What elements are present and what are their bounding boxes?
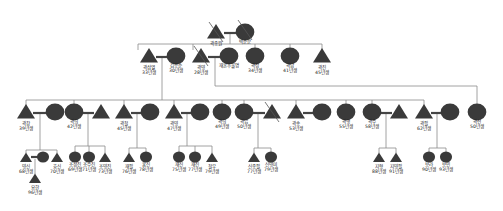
male-person-triangle xyxy=(390,104,408,118)
person-birth-year: 58년생 xyxy=(357,124,387,129)
person-label: 곽종원 xyxy=(201,41,231,46)
male-person-triangle xyxy=(313,48,331,62)
male-person-triangle xyxy=(165,104,183,118)
female-person-circle xyxy=(337,104,356,121)
male-person-triangle xyxy=(263,104,281,118)
female-person-circle xyxy=(140,152,152,163)
family-tree-diagram xyxy=(0,0,503,211)
male-person-triangle xyxy=(123,152,135,162)
person-birth-year: 78년생 xyxy=(131,167,161,172)
person-birth-year: 33년생 xyxy=(134,70,164,75)
female-person-circle xyxy=(65,104,84,121)
female-person-circle xyxy=(191,104,210,121)
male-person-triangle xyxy=(207,24,225,38)
female-person-circle xyxy=(141,104,160,121)
person-label: 곽희42년생 xyxy=(59,119,89,130)
female-person-circle xyxy=(83,152,95,163)
person-birth-year: 93년생 xyxy=(431,167,461,172)
male-person-triangle xyxy=(92,104,110,118)
person-birth-year: 62년생 xyxy=(409,126,439,131)
male-person-triangle xyxy=(17,104,35,118)
person-birth-year: 39년생 xyxy=(11,126,41,131)
person-nodes xyxy=(17,20,486,183)
female-person-circle xyxy=(441,104,460,121)
person-birth-year: 28년생 xyxy=(186,70,216,75)
person-birth-year: 96년생 xyxy=(20,190,50,195)
person-label: 영신68년생 xyxy=(11,164,41,175)
male-person-triangle xyxy=(51,152,63,162)
person-label: 요한96년생 xyxy=(20,185,50,196)
person-birth-year: 50년생 xyxy=(462,124,492,129)
female-person-circle xyxy=(440,152,452,163)
male-person-triangle xyxy=(248,152,260,162)
male-person-triangle xyxy=(115,104,133,118)
person-birth-year: 41년생 xyxy=(275,68,305,73)
female-person-circle xyxy=(468,104,487,121)
person-label: 곽필62년생 xyxy=(409,121,439,132)
male-person-triangle xyxy=(373,152,385,162)
female-person-circle xyxy=(69,152,81,163)
male-person-triangle xyxy=(206,152,218,162)
person-birth-year: 53년생 xyxy=(281,126,311,131)
male-person-triangle xyxy=(20,152,32,162)
male-person-triangle xyxy=(99,152,111,162)
person-label: 곽주58년생 xyxy=(357,119,387,130)
female-person-circle xyxy=(37,152,49,163)
female-person-circle xyxy=(173,152,185,163)
person-birth-year: 34년생 xyxy=(240,68,270,73)
person-label: 홍신78년생 xyxy=(131,162,161,173)
female-person-circle xyxy=(220,48,239,65)
person-birth-year: 79년생 xyxy=(197,169,227,174)
person-label: 곽임50년생 xyxy=(229,119,259,130)
person-label: 지영필91년생 xyxy=(381,164,411,175)
person-birth-year: 50년생 xyxy=(229,124,259,129)
person-birth-year: 45년생 xyxy=(307,70,337,75)
person-birth-year: 47년생 xyxy=(159,126,189,131)
person-birth-year: 42년생 xyxy=(59,124,89,129)
female-person-circle xyxy=(235,104,254,121)
female-person-circle xyxy=(313,104,332,121)
marriage-bonds xyxy=(31,33,444,157)
person-label: 곽창39년생 xyxy=(11,121,41,132)
male-person-triangle xyxy=(192,48,210,62)
female-person-circle xyxy=(236,24,255,41)
female-person-circle xyxy=(281,48,300,65)
person-label: 곽선50년생 xyxy=(462,119,492,130)
person-label: 곽정34년생 xyxy=(240,63,270,74)
person-label: 박순분 xyxy=(230,39,260,44)
female-person-circle xyxy=(265,152,277,163)
person-name: 곽종원 xyxy=(201,41,231,46)
person-name: 박순분 xyxy=(230,39,260,44)
male-person-triangle xyxy=(140,48,158,62)
female-person-circle xyxy=(213,104,232,121)
female-person-circle xyxy=(46,104,65,121)
female-person-circle xyxy=(167,48,186,65)
person-label: 곽진45년생 xyxy=(307,65,337,76)
male-person-triangle xyxy=(415,104,433,118)
person-label: 곽남41년생 xyxy=(275,63,305,74)
person-label: 곽영47년생 xyxy=(159,121,189,132)
person-birth-year: 45년생 xyxy=(109,126,139,131)
male-person-triangle xyxy=(287,104,305,118)
person-birth-year: 68년생 xyxy=(11,169,41,174)
female-person-circle xyxy=(363,104,382,121)
male-person-triangle xyxy=(390,152,402,162)
person-birth-year: 79년생 xyxy=(256,167,286,172)
person-birth-year: 91년생 xyxy=(381,169,411,174)
person-label: 곽영28년생 xyxy=(186,65,216,76)
female-person-circle xyxy=(246,48,265,65)
female-person-circle xyxy=(423,152,435,163)
person-label: 곽철45년생 xyxy=(109,121,139,132)
person-label: 곽삼열33년생 xyxy=(134,65,164,76)
person-label: 곽송53년생 xyxy=(281,121,311,132)
person-label: 철우79년생 xyxy=(197,164,227,175)
person-label: 보민93년생 xyxy=(431,162,461,173)
person-label: 신영미79년생 xyxy=(256,162,286,173)
female-person-circle xyxy=(189,152,201,163)
male-person-triangle xyxy=(29,173,41,183)
